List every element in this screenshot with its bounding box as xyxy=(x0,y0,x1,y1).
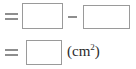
equals-bar-top xyxy=(5,13,18,15)
worksheet-fragment: (cm2) xyxy=(0,0,136,69)
equation-row-1 xyxy=(0,0,136,35)
minus-sign-icon xyxy=(68,16,77,18)
equals-bar-top xyxy=(5,49,18,51)
equals-bar-bottom xyxy=(5,54,18,56)
equals-bar-bottom xyxy=(5,18,18,20)
unit-text: cm xyxy=(72,43,90,59)
unit-close-paren: ) xyxy=(95,43,100,59)
answer-box-2[interactable] xyxy=(83,5,130,29)
equation-row-2: (cm2) xyxy=(0,35,136,69)
equals-sign-icon xyxy=(5,49,18,56)
equals-sign-icon xyxy=(5,13,18,20)
answer-box-1[interactable] xyxy=(22,3,63,29)
answer-box-3[interactable] xyxy=(26,40,62,65)
unit-label: (cm2) xyxy=(67,41,100,61)
